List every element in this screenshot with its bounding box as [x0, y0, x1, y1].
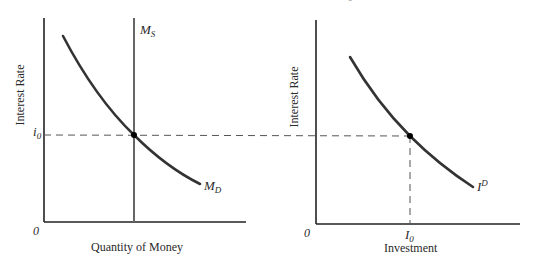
- investment-demand-label: ID: [477, 178, 488, 195]
- left-origin-label: 0: [33, 224, 39, 239]
- right-origin-label: 0: [304, 226, 310, 241]
- left-x-axis-label: Quantity of Money: [91, 240, 183, 255]
- investment-demand-curve: [350, 57, 473, 187]
- id-sup: D: [481, 178, 488, 188]
- ms-sub: S: [151, 29, 156, 39]
- money-demand-curve: [63, 36, 200, 184]
- money-market-equilibrium-point: [131, 132, 137, 138]
- right-y-axis-label: Interest Rate: [287, 68, 302, 128]
- investment-equilibrium-point: [407, 133, 413, 139]
- money-supply-label: MS: [140, 22, 155, 39]
- interest-rate-dashed-line: [44, 135, 410, 136]
- left-y-axis-label: Interest Rate: [13, 66, 28, 126]
- i0-tick-label: i0: [33, 124, 41, 141]
- right-x-axis-label: Investment: [384, 241, 437, 256]
- ms-main: M: [140, 22, 151, 37]
- diagram-canvas: [0, 0, 533, 269]
- top-fragment-text: 0: [348, 0, 353, 3]
- md-sub: D: [215, 185, 222, 195]
- md-main: M: [204, 178, 215, 193]
- right-panel: [316, 20, 520, 224]
- i0-sub: 0: [37, 131, 42, 141]
- money-demand-label: MD: [204, 178, 221, 195]
